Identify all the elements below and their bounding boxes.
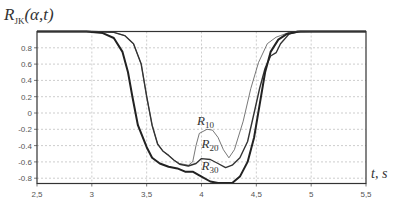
x-tick-label: 5,5: [360, 190, 372, 199]
series-labels: R10R20R30: [196, 113, 219, 175]
y-tick-label: 0: [28, 109, 33, 118]
x-tick-label: 4: [199, 190, 204, 199]
y-tick-label: -0.4: [18, 142, 32, 151]
y-tick-label: 0.8: [21, 44, 33, 53]
series-label-r10: R10: [196, 113, 214, 130]
y-tick-label: 0.2: [21, 93, 33, 102]
y-tick-label: -0.6: [18, 158, 32, 167]
x-tick-label: 2,5: [31, 190, 43, 199]
y-tick-label: 0.6: [21, 60, 33, 69]
chart-title: RJK(α,t): [3, 5, 54, 26]
x-tick-label: 3: [90, 190, 95, 199]
y-tick-label: 0.4: [21, 76, 33, 85]
series-label-r30: R30: [201, 158, 219, 175]
x-axis-ticks: 2,533,544,555,5: [31, 184, 372, 200]
x-tick-label: 5: [309, 190, 314, 199]
line-chart: RJK(α,t) 0.80.60.40.20-0.2-0.4-0.6-0.8 2…: [0, 0, 400, 208]
y-tick-label: -0.2: [18, 125, 32, 134]
y-axis-ticks: 0.80.60.40.20-0.2-0.4-0.6-0.8: [18, 44, 37, 183]
y-tick-label: -0.8: [18, 174, 32, 183]
x-axis-label: t, s: [371, 166, 388, 181]
x-tick-label: 4,5: [251, 190, 263, 199]
x-tick-label: 3,5: [141, 190, 153, 199]
series-label-r20: R20: [201, 136, 219, 153]
